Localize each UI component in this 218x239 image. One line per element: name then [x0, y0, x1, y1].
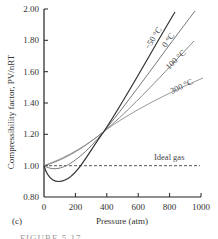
svg-text:1.20: 1.20 [23, 129, 39, 139]
svg-text:200: 200 [69, 202, 83, 212]
y-tick-labels: 2.00 1.80 1.60 1.40 1.20 1.00 0.80 [23, 4, 39, 202]
svg-text:0.80: 0.80 [23, 192, 39, 202]
svg-text:800: 800 [163, 202, 177, 212]
svg-text:2.00: 2.00 [23, 4, 39, 14]
label-minus50c: −50 °C [142, 25, 164, 51]
x-tick-labels: 0 200 400 600 800 1000 [42, 202, 211, 212]
label-300c: 300 °C [168, 76, 194, 96]
figure-caption: FIGURE 5.17 [20, 231, 82, 239]
svg-text:1000: 1000 [192, 202, 211, 212]
compressibility-chart: 2.00 1.80 1.60 1.40 1.20 1.00 0.80 0 200… [0, 0, 218, 239]
svg-text:600: 600 [131, 202, 145, 212]
svg-text:1.00: 1.00 [23, 161, 39, 171]
x-axis-label: Pressure (atm) [96, 216, 148, 226]
svg-text:1.60: 1.60 [23, 67, 39, 77]
svg-text:400: 400 [100, 202, 114, 212]
svg-text:0: 0 [42, 202, 47, 212]
y-axis-label: Compressibility factor, PV/nRT [6, 54, 16, 169]
panel-label: (c) [12, 216, 22, 226]
svg-text:1.40: 1.40 [23, 98, 39, 108]
svg-text:1.80: 1.80 [23, 35, 39, 45]
ideal-gas-label: Ideal gas [154, 152, 184, 162]
